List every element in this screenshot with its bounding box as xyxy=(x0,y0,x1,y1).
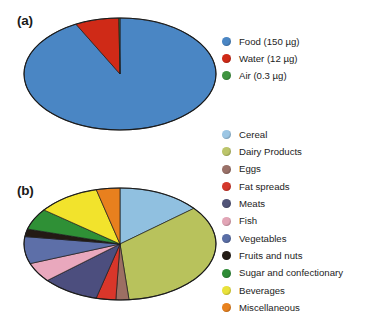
legend-swatch-icon xyxy=(222,54,231,63)
legend-b-item: Miscellaneous xyxy=(222,299,343,316)
figure-pie-charts: (a) Food (150 µg)Water (12 µg)Air (0.3 µ… xyxy=(0,0,376,325)
legend-label: Beverages xyxy=(239,286,285,296)
legend-a-item: Food (150 µg) xyxy=(222,33,299,50)
legend-label: Fruits and nuts xyxy=(239,251,302,261)
legend-label: Eggs xyxy=(239,164,261,174)
legend-b-item: Fish xyxy=(222,212,343,229)
legend-b-item: Vegetables xyxy=(222,230,343,247)
legend-label: Fat spreads xyxy=(239,182,290,192)
legend-b-item: Dairy Products xyxy=(222,143,343,160)
legend-label: Sugar and confectionary xyxy=(239,268,343,278)
legend-panel-b: CerealDairy ProductsEggsFat spreadsMeats… xyxy=(222,126,343,316)
legend-label: Air (0.3 µg) xyxy=(239,71,287,81)
legend-label: Water (12 µg) xyxy=(239,54,298,64)
pie-chart-b: CerealDairy ProductsEggsFat spreadsMeats… xyxy=(22,186,218,302)
legend-panel-a: Food (150 µg)Water (12 µg)Air (0.3 µg) xyxy=(222,33,299,85)
legend-swatch-icon xyxy=(222,286,231,295)
pie-a-svg: Food (150 µg)Water (12 µg)Air (0.3 µg) xyxy=(22,16,218,132)
legend-label: Fish xyxy=(239,216,257,226)
legend-label: Food (150 µg) xyxy=(239,37,299,47)
legend-label: Vegetables xyxy=(239,234,286,244)
legend-swatch-icon xyxy=(222,182,231,191)
pie-chart-a: Food (150 µg)Water (12 µg)Air (0.3 µg) xyxy=(22,16,218,132)
legend-b-item: Meats xyxy=(222,195,343,212)
legend-a-item: Air (0.3 µg) xyxy=(222,67,299,84)
legend-swatch-icon xyxy=(222,147,231,156)
legend-label: Miscellaneous xyxy=(239,303,300,313)
legend-b-item: Beverages xyxy=(222,282,343,299)
legend-swatch-icon xyxy=(222,37,231,46)
legend-swatch-icon xyxy=(222,217,231,226)
legend-a-item: Water (12 µg) xyxy=(222,50,299,67)
legend-label: Dairy Products xyxy=(239,147,302,157)
legend-swatch-icon xyxy=(222,130,231,139)
pie-b-svg: CerealDairy ProductsEggsFat spreadsMeats… xyxy=(22,186,218,302)
legend-swatch-icon xyxy=(222,251,231,260)
legend-label: Meats xyxy=(239,199,265,209)
legend-b-item: Cereal xyxy=(222,126,343,143)
legend-swatch-icon xyxy=(222,269,231,278)
legend-b-item: Fat spreads xyxy=(222,178,343,195)
legend-swatch-icon xyxy=(222,303,231,312)
legend-label: Cereal xyxy=(239,130,267,140)
legend-b-item: Sugar and confectionary xyxy=(222,264,343,281)
legend-b-item: Eggs xyxy=(222,161,343,178)
legend-swatch-icon xyxy=(222,234,231,243)
legend-swatch-icon xyxy=(222,199,231,208)
legend-b-item: Fruits and nuts xyxy=(222,247,343,264)
legend-swatch-icon xyxy=(222,71,231,80)
legend-swatch-icon xyxy=(222,165,231,174)
